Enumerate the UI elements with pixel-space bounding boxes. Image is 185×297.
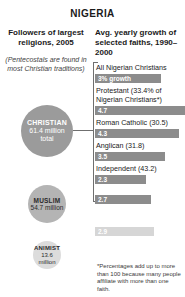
bar-value: 4.3 <box>95 130 107 137</box>
bar-group-independent: Independent (43.2) 2.3 <box>95 163 185 184</box>
bar-label: Protestant (33.4% of Nigerian Christians… <box>95 85 185 105</box>
bar-group-all-christians: All Nigerian Christians 3% growth <box>95 62 185 83</box>
bubble-animist-label: ANIMIST <box>34 245 60 252</box>
bar-group-muslim: 2.7 <box>95 195 185 204</box>
bar: 4.7 <box>95 106 185 115</box>
bar-group-roman-catholic: Roman Catholic (30.5) 4.3 <box>95 117 185 138</box>
bar: 2.7 <box>95 195 151 204</box>
bubble-muslim: MUSLIM 54.7 million <box>28 185 66 223</box>
bubble-muslim-label: MUSLIM <box>34 197 61 205</box>
bar-label: All Nigerian Christians <box>95 62 185 73</box>
infographic-root: NIGERIA Followers of largest religions, … <box>0 0 185 297</box>
bar-value: 2.7 <box>95 196 107 203</box>
bar-value: 4.7 <box>95 107 107 114</box>
bar-label: Roman Catholic (30.5) <box>95 117 185 128</box>
bubble-christian: CHRISTIAN 61.4 million total <box>21 105 73 157</box>
bubble-chart: CHRISTIAN 61.4 million total MUSLIM 54.7… <box>0 0 92 297</box>
bubble-christian-value: 61.4 million <box>29 127 64 135</box>
growth-bar-chart: All Nigerian Christians 3% growth Protes… <box>95 62 185 238</box>
bar: 3.5 <box>95 152 165 161</box>
bar: 2.9 <box>95 227 154 236</box>
bar-value: 3% growth <box>95 75 131 82</box>
bar: 4.3 <box>95 129 179 138</box>
right-column-heading: Avg. yearly growth of selected faiths, 1… <box>95 28 183 58</box>
bar-group-animist: 2.9 <box>95 227 185 236</box>
bar: 2.3 <box>95 175 146 184</box>
bar: 3% growth <box>95 74 161 83</box>
bubble-christian-label: CHRISTIAN <box>27 119 67 127</box>
bar-value: 3.5 <box>95 153 107 160</box>
bubble-muslim-value: 54.7 million <box>31 204 64 212</box>
bubble-animist-value: 13.6 million <box>33 252 61 266</box>
bubble-animist: ANIMIST 13.6 million <box>33 241 61 269</box>
bubble-christian-sub: total <box>40 135 53 143</box>
bar-value: 2.9 <box>95 228 107 235</box>
bar-label: Independent (43.2) <box>95 163 185 174</box>
right-column: Avg. yearly growth of selected faiths, 1… <box>95 28 183 58</box>
bar-value: 2.3 <box>95 176 107 183</box>
christian-connector-line <box>73 130 93 131</box>
footnote: *Percentages add up to more than 100 bec… <box>97 263 183 293</box>
bar-label: Anglican (31.8) <box>95 140 185 151</box>
bar-group-protestant: Protestant (33.4% of Nigerian Christians… <box>95 85 185 115</box>
bar-group-anglican: Anglican (31.8) 3.5 <box>95 140 185 161</box>
